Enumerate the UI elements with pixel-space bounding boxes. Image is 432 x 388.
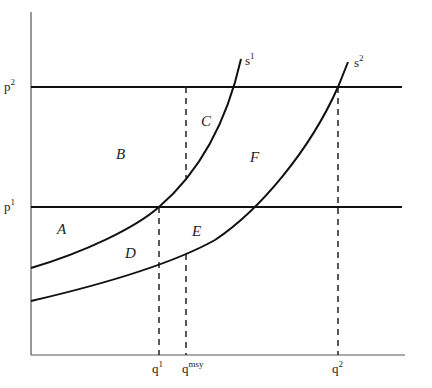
region-label-e: E: [191, 223, 201, 239]
x-tick-qmsy: qmsy: [182, 359, 204, 376]
y-tick-p2: p2: [4, 77, 15, 94]
region-label-a: A: [56, 221, 67, 237]
supply-curve-s2: [31, 62, 348, 301]
region-label-c: C: [201, 113, 212, 129]
region-label-d: D: [124, 245, 136, 261]
x-tick-q1: q1: [152, 359, 163, 376]
curve-label-s2: s2: [354, 53, 364, 70]
region-label-b: B: [116, 146, 125, 162]
y-tick-p1: p1: [4, 197, 15, 214]
region-label-f: F: [249, 149, 260, 165]
curve-label-s1: s1: [245, 51, 255, 68]
supply-diagram: p2 p1 q1 qmsy q2 s1 s2 A B C D E F: [0, 0, 432, 388]
x-tick-q2: q2: [332, 359, 343, 376]
